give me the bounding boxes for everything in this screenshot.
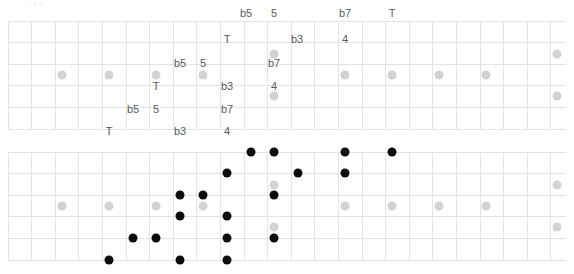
fret-inlay-dot: [105, 71, 114, 80]
fret-inlay-dot: [553, 181, 562, 190]
fret-inlay-dot: [270, 92, 279, 101]
note-dot: [294, 169, 303, 178]
note-dot: [223, 169, 232, 178]
fret-inlay-dot: [553, 223, 562, 232]
fret-inlay-dot: [482, 202, 491, 211]
note-dot: [388, 148, 397, 157]
interval-label: T: [389, 8, 396, 19]
fretboard-diagrams-stage: . , . b55b7TTb34b55b7Tb34b55b7Tb34: [0, 0, 574, 274]
note-dot: [105, 256, 114, 265]
fret-inlay-dot: [199, 202, 208, 211]
note-dot: [199, 191, 208, 200]
note-dot: [176, 191, 185, 200]
fret-inlay-dot: [105, 202, 114, 211]
interval-label: b7: [339, 8, 351, 19]
fret-inlay-dot: [553, 92, 562, 101]
interval-label: 5: [271, 8, 277, 19]
interval-label: T: [106, 126, 113, 137]
interval-label: T: [153, 81, 160, 92]
note-dot: [341, 148, 350, 157]
fret-inlay-dot: [435, 71, 444, 80]
fret-inlay-dot: [435, 202, 444, 211]
note-dot: [223, 212, 232, 221]
note-dot: [176, 212, 185, 221]
interval-label: b3: [291, 34, 303, 45]
interval-label: 4: [342, 34, 348, 45]
fret-inlay-dot: [270, 223, 279, 232]
fret-inlay-dot: [270, 181, 279, 190]
fret-inlay-dot: [341, 202, 350, 211]
note-dot: [223, 256, 232, 265]
interval-label: b5: [240, 8, 252, 19]
fret-inlay-dot: [553, 50, 562, 59]
note-dot: [270, 234, 279, 243]
note-dot: [341, 169, 350, 178]
note-dot: [152, 234, 161, 243]
fret-inlay-dot: [152, 202, 161, 211]
note-dot: [129, 234, 138, 243]
interval-label: b7: [268, 58, 280, 69]
fret-inlay-dot: [388, 202, 397, 211]
fret-inlay-dot: [152, 71, 161, 80]
clipped-caption: . , .: [0, 0, 574, 9]
note-dot: [270, 148, 279, 157]
interval-label: 5: [153, 104, 159, 115]
interval-label: b5: [127, 104, 139, 115]
interval-label: b7: [221, 104, 233, 115]
fret-inlay-dot: [199, 71, 208, 80]
interval-label: 4: [271, 81, 277, 92]
interval-label: b3: [221, 81, 233, 92]
fret-inlay-dot: [341, 71, 350, 80]
note-dot: [270, 191, 279, 200]
fret-inlay-dot: [58, 71, 67, 80]
fret-inlay-dot: [482, 71, 491, 80]
interval-label: 4: [224, 126, 230, 137]
note-dot: [176, 256, 185, 265]
note-dot: [223, 234, 232, 243]
interval-label: b3: [174, 126, 186, 137]
interval-label: T: [224, 34, 231, 45]
fret-inlay-dot: [58, 202, 67, 211]
interval-label: 5: [200, 58, 206, 69]
fret-inlay-dot: [388, 71, 397, 80]
interval-label: b5: [174, 58, 186, 69]
note-dot: [247, 148, 256, 157]
